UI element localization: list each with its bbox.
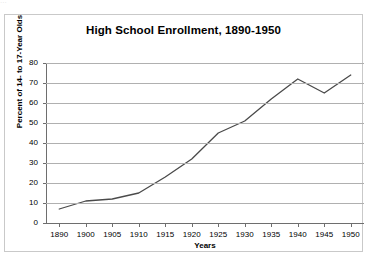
y-tick-mark (43, 223, 46, 224)
gridline-y-70 (46, 83, 364, 84)
y-tick-label: 30 (12, 159, 38, 167)
cut-off-text-sliver: ... (0, 0, 368, 11)
x-tick-label: 1950 (333, 231, 368, 239)
y-tick-mark (43, 163, 46, 164)
x-tick-mark (245, 224, 246, 227)
y-tick-label: 50 (12, 119, 38, 127)
x-tick-mark (218, 224, 219, 227)
y-tick-label: 40 (12, 139, 38, 147)
gridline-y-60 (46, 103, 364, 104)
y-tick-mark (43, 63, 46, 64)
y-axis-label: Percent of 14- to 17-Year Olds (15, 6, 24, 138)
y-tick-label: 10 (12, 199, 38, 207)
gridline-y-40 (46, 143, 364, 144)
x-tick-mark (86, 224, 87, 227)
y-tick-label: 20 (12, 179, 38, 187)
gridline-y-80 (46, 63, 364, 64)
plot-area (46, 63, 364, 223)
y-tick-label: 0 (12, 219, 38, 227)
x-tick-mark (324, 224, 325, 227)
chart-container: High School Enrollment, 1890-1950 Percen… (4, 14, 363, 252)
gridline-y-10 (46, 203, 364, 204)
y-tick-label: 80 (12, 59, 38, 67)
x-tick-mark (271, 224, 272, 227)
cut-off-text: ... (0, 0, 7, 5)
y-tick-mark (43, 183, 46, 184)
y-tick-mark (43, 143, 46, 144)
gridline-y-50 (46, 123, 364, 124)
gridline-y-30 (46, 163, 364, 164)
x-tick-mark (298, 224, 299, 227)
y-tick-mark (43, 203, 46, 204)
y-tick-mark (43, 83, 46, 84)
chart-title: High School Enrollment, 1890-1950 (5, 24, 362, 36)
x-tick-mark (165, 224, 166, 227)
x-tick-mark (112, 224, 113, 227)
x-tick-mark (59, 224, 60, 227)
x-tick-mark (192, 224, 193, 227)
y-tick-mark (43, 103, 46, 104)
gridline-y-20 (46, 183, 364, 184)
y-tick-label: 60 (12, 99, 38, 107)
y-tick-mark (43, 123, 46, 124)
x-axis-label: Years (46, 241, 364, 250)
x-tick-mark (351, 224, 352, 227)
x-tick-mark (139, 224, 140, 227)
y-tick-label: 70 (12, 79, 38, 87)
